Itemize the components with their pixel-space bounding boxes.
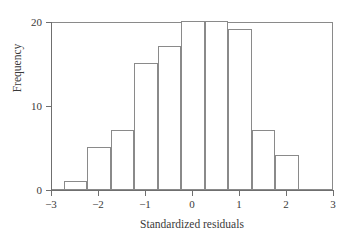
plot-area xyxy=(51,22,333,190)
histogram-bar xyxy=(228,29,252,189)
y-axis-tick-label: 10 xyxy=(14,100,42,112)
histogram-bar xyxy=(111,130,135,189)
x-axis-tick-label: 3 xyxy=(313,198,353,211)
y-axis-tick xyxy=(46,22,51,23)
x-axis-tick-label: −1 xyxy=(125,198,165,211)
histogram-bar xyxy=(205,21,229,189)
x-axis-tick xyxy=(286,191,287,196)
histogram-bar xyxy=(181,21,205,189)
x-axis-tick xyxy=(51,191,52,196)
y-axis-line xyxy=(51,22,52,191)
x-axis-tick-label: −2 xyxy=(78,198,118,211)
histogram-figure: Frequency Standardized residuals −3−2−10… xyxy=(0,0,353,250)
x-axis-tick xyxy=(333,191,334,196)
histogram-bar xyxy=(252,130,276,189)
x-axis-tick-label: −3 xyxy=(31,198,71,211)
x-axis-title: Standardized residuals xyxy=(51,218,333,230)
histogram-bar xyxy=(64,181,88,189)
histogram-bar xyxy=(275,155,299,189)
x-axis-tick xyxy=(239,191,240,196)
histogram-bar xyxy=(87,147,111,189)
histogram-bar xyxy=(134,63,158,189)
y-axis-tick-label: 20 xyxy=(14,16,42,28)
x-axis-tick xyxy=(145,191,146,196)
histogram-bar xyxy=(158,46,182,189)
x-axis-tick-label: 0 xyxy=(172,198,212,211)
y-axis-tick xyxy=(46,106,51,107)
x-axis-tick-label: 1 xyxy=(219,198,259,211)
x-axis-tick-label: 2 xyxy=(266,198,306,211)
x-axis-tick xyxy=(98,191,99,196)
x-axis-tick xyxy=(192,191,193,196)
y-axis-tick xyxy=(46,190,51,191)
y-axis-tick-label: 0 xyxy=(14,184,42,196)
